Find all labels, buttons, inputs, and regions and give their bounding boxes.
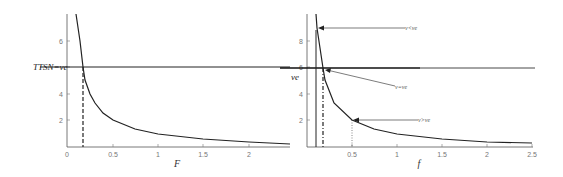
left-xtick-1: 1 [156,151,160,158]
right-hline-label: ve [291,72,299,82]
left-curve [76,14,290,144]
left-y-ticks: 2 4 6 [59,38,70,124]
left-xtick-1.5: 1.5 [198,151,208,158]
figure: 2 4 6 0 0.5 1 1.5 2 TTSN=ve F [0,0,563,177]
right-ytick-4: 4 [299,91,303,98]
right-xtick-2: 2 [485,151,489,158]
right-curve [316,14,532,143]
arrow-v-less-ve: v<ve [318,25,417,31]
left-xtick-0: 0 [65,151,69,158]
left-x-ticks: 0 0.5 1 1.5 2 [65,144,251,158]
right-xtick-1: 1 [395,151,399,158]
right-xlabel: f [418,158,422,169]
svg-text:6: 6 [59,38,63,45]
left-hline-label: TTSN=ve [33,62,68,72]
right-ytick-2: 2 [299,117,303,124]
right-chart: 2 4 6 8 0.5 1 1.5 2 2.5 ve [280,14,537,169]
right-xtick-1.5: 1.5 [437,151,447,158]
label-v-greater-ve: v>ve [418,117,430,123]
arrow-v-equal-ve: v=ve [325,68,407,90]
label-v-equal-ve: v=ve [395,84,407,90]
left-ytick-2: 2 [59,117,63,124]
label-v-less-ve: v<ve [405,25,417,31]
left-xtick-2: 2 [247,151,251,158]
right-x-ticks: 0.5 1 1.5 2 2.5 [347,144,537,158]
left-ytick-4: 4 [59,91,63,98]
arrow-v-greater-ve: v>ve [353,117,430,123]
left-xtick-0.5: 0.5 [108,151,118,158]
right-ytick-8: 8 [299,38,303,45]
left-xlabel: F [173,158,181,169]
right-xtick-0.5: 0.5 [347,151,357,158]
right-y-ticks: 2 4 6 8 [299,38,310,124]
right-xtick-2.5: 2.5 [527,151,537,158]
left-chart: 2 4 6 0 0.5 1 1.5 2 TTSN=ve F [33,14,290,169]
